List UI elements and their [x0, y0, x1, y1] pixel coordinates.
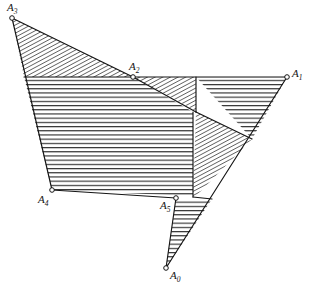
vertex-marker-a5: [174, 196, 179, 201]
vertex-label-subscript: 5: [167, 205, 171, 214]
vertex-marker-a1: [285, 75, 290, 80]
vertex-label-letter: A: [292, 67, 299, 79]
edge-a5-band: [193, 197, 212, 199]
vertex-marker-a0: [164, 266, 169, 271]
vertex-marker-a4: [50, 188, 55, 193]
vertex-label-a2: A2: [129, 61, 139, 75]
vertex-label-subscript: 2: [136, 66, 140, 75]
vertex-label-letter: A: [129, 60, 136, 72]
vertex-label-letter: A: [38, 193, 45, 205]
vertex-label-subscript: 1: [299, 73, 303, 82]
vertex-label-subscript: 3: [14, 7, 18, 16]
vertex-label-a3: A3: [7, 2, 17, 16]
vertex-marker-a2: [131, 75, 136, 80]
vertex-label-a1: A1: [292, 68, 302, 82]
vertex-label-a0: A0: [170, 270, 180, 284]
figure-canvas: [0, 0, 309, 288]
vertex-label-letter: A: [7, 1, 14, 13]
vertex-label-a4: A4: [38, 194, 48, 208]
vertex-label-letter: A: [170, 269, 177, 281]
vertex-label-subscript: 0: [177, 275, 181, 284]
vertex-label-subscript: 4: [45, 199, 49, 208]
geometry-figure: A0A1A2A3A4A5: [0, 0, 309, 288]
vertex-marker-a3: [10, 16, 15, 21]
vertex-label-letter: A: [160, 199, 167, 211]
vertex-label-a5: A5: [160, 200, 170, 214]
